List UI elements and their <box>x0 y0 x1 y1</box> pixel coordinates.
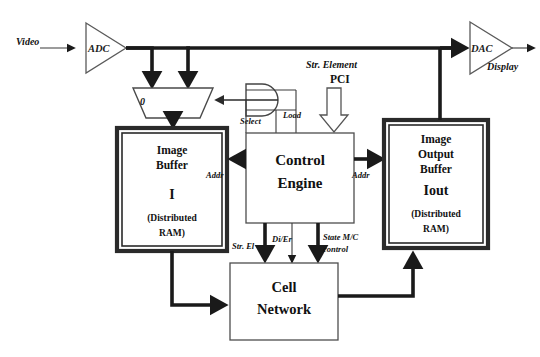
block-diagram-canvas: Video ADC 0 Select Load <box>0 0 540 357</box>
image-buffer-to-cell-network-wire <box>172 251 225 305</box>
addr-right-label: Addr <box>351 170 370 180</box>
pci-input-group: Str. Element PCI <box>306 59 358 132</box>
image-output-buffer-line6: RAM) <box>423 224 449 235</box>
cell-network-to-iout-wire <box>338 254 413 296</box>
pci-hollow-arrow <box>320 88 348 132</box>
video-label: Video <box>16 36 39 47</box>
adc-to-mux-left-wire <box>126 48 152 82</box>
pci-label: PCI <box>330 73 350 85</box>
image-output-buffer-line3: Buffer <box>420 163 452 175</box>
adc-label: ADC <box>87 43 111 54</box>
image-buffer-line2: Buffer <box>156 159 188 171</box>
cell-network-line1: Cell <box>272 279 297 295</box>
addr-right-wire-group: Addr <box>351 159 382 180</box>
image-output-buffer-line1: Image <box>421 133 452 146</box>
image-buffer-line3: I <box>169 187 174 202</box>
mux-zero-label: 0 <box>140 96 145 107</box>
adc-output-bus <box>126 48 466 86</box>
block-diagram-svg: Video ADC 0 Select Load <box>0 0 540 357</box>
image-output-buffer-line4: Iout <box>424 183 449 198</box>
dac-label: DAC <box>470 43 494 54</box>
image-buffer-line4: (Distributed <box>147 213 197 224</box>
state-mc-label: State M/C <box>323 232 359 242</box>
control-engine-line1: Control <box>275 152 325 168</box>
select-label: Select <box>240 116 261 126</box>
image-buffer-line1: Image <box>157 144 188 157</box>
image-output-buffer-line2: Output <box>418 148 454 161</box>
mux-trapezoid <box>133 88 213 118</box>
image-output-buffer-line5: (Distributed <box>411 209 461 220</box>
cell-network-block: Cell Network <box>230 263 338 340</box>
state-mc-control-label: control <box>323 244 349 254</box>
cell-network-line2: Network <box>257 301 312 317</box>
control-engine-line2: Engine <box>277 175 322 191</box>
control-engine-block: Control Engine <box>246 133 354 223</box>
str-element-label: Str. Element <box>306 59 358 70</box>
di-er-label: Di/Er <box>271 234 293 244</box>
load-label: Load <box>282 110 302 120</box>
str-el-label: Str. El <box>232 241 255 251</box>
image-buffer-block: Image Buffer I (Distributed RAM) <box>117 128 227 251</box>
image-output-buffer-block: Image Output Buffer Iout (Distributed RA… <box>384 120 488 248</box>
image-buffer-line5: RAM) <box>159 228 185 239</box>
adc-block: ADC <box>86 23 126 73</box>
display-label: Display <box>486 61 519 72</box>
addr-left-label: Addr <box>205 170 224 180</box>
multiplexer-block: 0 <box>133 88 213 126</box>
